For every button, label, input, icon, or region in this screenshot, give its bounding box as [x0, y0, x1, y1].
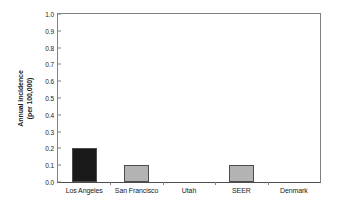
plot-area: 1.00.90.80.70.60.50.40.30.20.10.0Los Ang… [57, 13, 321, 183]
x-axis-tick-label: Los Angeles [66, 187, 103, 194]
x-axis-tick-mark [110, 182, 111, 185]
x-axis-tick-label: SEER [232, 187, 251, 194]
y-axis-tick-mark [58, 14, 61, 15]
y-axis-tick-mark [58, 182, 61, 183]
y-axis-tick-label: 0.8 [45, 44, 54, 51]
y-axis-tick-mark [58, 81, 61, 82]
y-axis-tick-label: 0.2 [45, 145, 54, 152]
bar-los-angeles [72, 148, 97, 182]
y-axis-tick-label: 0.9 [45, 27, 54, 34]
x-axis-tick-mark [163, 182, 164, 185]
y-axis-tick-mark [58, 98, 61, 99]
x-axis-tick-label: Denmark [280, 187, 308, 194]
y-axis-tick-mark [58, 165, 61, 166]
bar-seer [229, 165, 254, 182]
x-axis-tick-label: San Francisco [115, 187, 158, 194]
y-axis-tick-mark [58, 114, 61, 115]
x-axis-tick-mark [268, 182, 269, 185]
y-axis-title-line-2: (per 100,000) [25, 70, 34, 126]
bar-chart-figure: Annual incidence (per 100,000) 1.00.90.8… [0, 0, 341, 207]
y-axis-tick-label: 0.6 [45, 78, 54, 85]
y-axis-tick-mark [58, 131, 61, 132]
x-axis-tick-label: Utah [182, 187, 196, 194]
y-axis-title-line-1: Annual incidence [17, 70, 26, 126]
y-axis-tick-label: 0.5 [45, 95, 54, 102]
y-axis-tick-label: 0.1 [45, 162, 54, 169]
y-axis-tick-label: 0.0 [45, 179, 54, 186]
y-axis-tick-label: 0.7 [45, 61, 54, 68]
bar-san-francisco [124, 165, 149, 182]
y-axis-title: Annual incidence (per 100,000) [10, 0, 40, 197]
x-axis-tick-mark [215, 182, 216, 185]
y-axis-tick-label: 1.0 [45, 11, 54, 18]
y-axis-tick-mark [58, 47, 61, 48]
y-axis-tick-label: 0.3 [45, 128, 54, 135]
y-axis-tick-mark [58, 64, 61, 65]
y-axis-tick-mark [58, 30, 61, 31]
y-axis-tick-mark [58, 148, 61, 149]
y-axis-tick-label: 0.4 [45, 111, 54, 118]
